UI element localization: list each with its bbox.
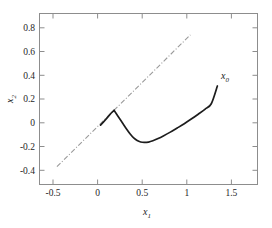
y-tick-label-6: -0.4	[20, 166, 35, 176]
y-tick-label-1: 0.6	[23, 47, 35, 57]
x-tick-label-1: 0	[95, 188, 100, 198]
x-tick-label-3: 1	[184, 188, 189, 198]
x-tick-label-2: 0.5	[136, 188, 148, 198]
x-tick-label-4: 1.5	[225, 188, 237, 198]
x-axis-title-sub: 1	[147, 212, 151, 220]
x-tick-label-0: -0.5	[45, 188, 60, 198]
y-tick-label-4: 0	[30, 118, 35, 128]
figure-container: -0.5 0 0.5 1 1.5 0.8 0.6 0.4 0.2 0 -0.2 …	[0, 0, 272, 228]
y-tick-label-0: 0.8	[23, 23, 35, 33]
y-tick-label-5: -0.2	[20, 142, 35, 152]
y-tick-label-3: 0.2	[23, 94, 35, 104]
x0-annotation-sub: 0	[225, 76, 229, 84]
y-axis-title-sub: 2	[10, 95, 18, 99]
chart-canvas: -0.5 0 0.5 1 1.5 0.8 0.6 0.4 0.2 0 -0.2 …	[0, 0, 272, 228]
y-tick-label-2: 0.4	[23, 71, 35, 81]
